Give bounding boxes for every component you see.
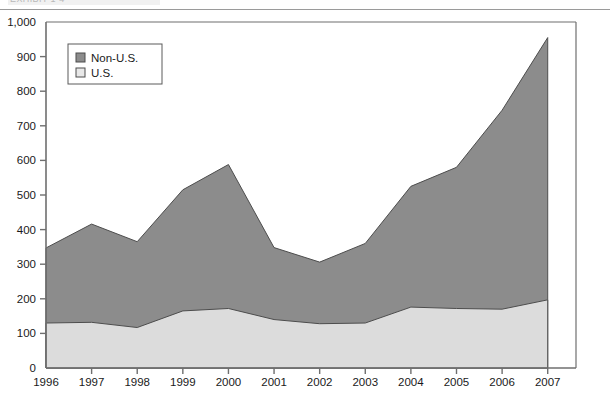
y-tick-label: 0 — [30, 362, 36, 374]
legend-label-us: U.S. — [91, 67, 113, 79]
y-axis-tick-labels: 01002003004005006007008009001,000 — [7, 16, 36, 374]
y-axis-ticks — [40, 57, 46, 334]
x-tick-label: 2006 — [489, 376, 515, 388]
y-tick-label: 400 — [17, 224, 36, 236]
y-tick-label: 500 — [17, 189, 36, 201]
x-tick-label: 2003 — [352, 376, 378, 388]
y-tick-label: 900 — [17, 51, 36, 63]
legend-swatch-non-us-icon — [76, 53, 85, 62]
y-tick-label: 300 — [17, 258, 36, 270]
y-tick-label: 100 — [17, 327, 36, 339]
x-tick-label: 2002 — [307, 376, 333, 388]
y-tick-label: 700 — [17, 120, 36, 132]
legend-swatch-us-icon — [76, 68, 85, 77]
x-tick-label: 2004 — [398, 376, 424, 388]
x-tick-label: 1999 — [170, 376, 196, 388]
legend[interactable]: Non-U.S. U.S. — [68, 44, 162, 84]
x-axis-ticks — [92, 368, 548, 374]
x-tick-label: 1997 — [79, 376, 105, 388]
y-tick-label: 800 — [17, 85, 36, 97]
legend-label-non-us: Non-U.S. — [91, 52, 138, 64]
x-tick-label: 1998 — [124, 376, 150, 388]
area-chart: 01002003004005006007008009001,000 199619… — [0, 0, 610, 396]
x-tick-label: 2001 — [261, 376, 287, 388]
x-tick-label: 2000 — [216, 376, 242, 388]
legend-box — [68, 44, 162, 84]
figure-container: EXHIBIT 1-4 0100200300400500600700800900… — [0, 0, 610, 396]
y-tick-label: 200 — [17, 293, 36, 305]
legend-item-non-us[interactable]: Non-U.S. — [76, 52, 138, 64]
legend-item-us[interactable]: U.S. — [76, 67, 113, 79]
series-areas — [46, 38, 548, 368]
x-axis-tick-labels: 1996199719981999200020012002200320042005… — [33, 376, 560, 388]
y-tick-label: 1,000 — [7, 16, 36, 28]
x-tick-label: 2005 — [444, 376, 470, 388]
y-tick-label: 600 — [17, 154, 36, 166]
x-tick-label: 1996 — [33, 376, 59, 388]
x-tick-label: 2007 — [535, 376, 561, 388]
